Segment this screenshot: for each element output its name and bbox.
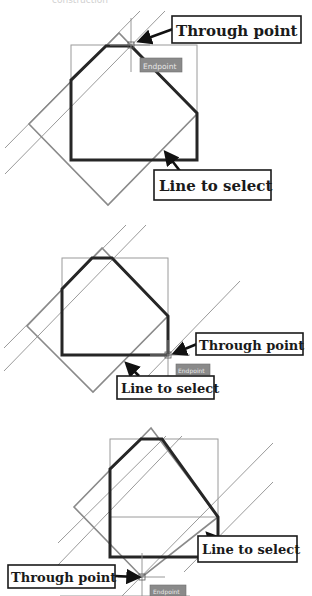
bounding-rectangle [110,439,218,517]
panel-2: Endpoint Through point Line to select [4,225,304,399]
heavy-polygon [62,258,168,355]
endpoint-snap-tag: Endpoint [140,58,182,72]
arrow-icon [127,364,139,376]
arrow-icon [115,576,138,577]
construction-line [58,436,166,543]
callout-through-point: Through point [175,333,304,355]
panel-3: Endpoint Line to select Through point [8,428,300,596]
svg-text:Line to select: Line to select [121,381,219,396]
construction-line-through [122,443,273,596]
construction-line-new [148,281,240,376]
callout-line-to-select: Line to select [198,534,300,562]
svg-text:Through point: Through point [11,570,116,585]
svg-text:Line to select: Line to select [159,177,272,195]
svg-text:Endpoint: Endpoint [178,367,205,375]
rotated-square [27,248,168,392]
endpoint-snap-tag: Endpoint [176,364,210,375]
caption-fragment: construction [52,0,108,5]
callout-through-point: Through point [140,16,301,43]
construction-line-offset [58,436,182,565]
rotated-square [74,428,218,577]
endpoint-snap-tag: Endpoint [150,585,186,596]
svg-text:Through point: Through point [199,338,304,353]
construction-line-offset [5,11,165,174]
svg-text:Line to select: Line to select [202,542,300,557]
callout-line-to-select: Line to select [154,153,272,200]
svg-text:Endpoint: Endpoint [143,62,176,71]
svg-text:Endpoint: Endpoint [153,588,180,596]
construction-line-offset [4,225,146,371]
callout-through-point: Through point [8,565,138,588]
panel-1: Endpoint Through point Line to select [5,11,301,205]
svg-text:Through point: Through point [176,22,298,40]
arrow-icon [166,153,180,171]
figure-canvas: construction Endpoint Through point Line… [0,0,312,596]
